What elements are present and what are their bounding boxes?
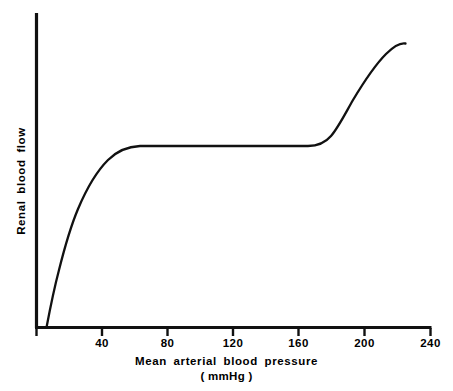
x-axis-ticks xyxy=(37,328,431,336)
x-tick-label-40: 40 xyxy=(82,337,122,350)
x-tick-label-240: 240 xyxy=(411,337,451,350)
renal-autoregulation-figure: 40 80 120 160 200 240 Mean arterial bloo… xyxy=(0,0,453,391)
x-axis-title-text: Mean arterial blood pressure xyxy=(135,355,318,367)
plot-area xyxy=(0,0,453,391)
x-tick-label-80: 80 xyxy=(148,337,188,350)
x-axis-units-text: ( mmHg ) xyxy=(0,369,453,384)
x-tick-label-160: 160 xyxy=(279,337,319,350)
x-axis-title: Mean arterial blood pressure ( mmHg ) xyxy=(0,354,453,384)
x-tick-label-200: 200 xyxy=(345,337,385,350)
y-axis-title: Renal blood flow xyxy=(15,111,27,251)
renal-blood-flow-curve xyxy=(47,43,406,327)
x-tick-label-120: 120 xyxy=(213,337,253,350)
